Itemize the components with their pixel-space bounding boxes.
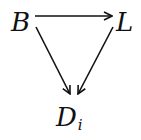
arrow-l-to-d <box>78 27 113 94</box>
node-l-label: L <box>116 7 133 37</box>
node-d-subscript: i <box>78 116 83 134</box>
node-l: L <box>116 9 133 35</box>
node-d-i: Di <box>56 104 83 130</box>
arrow-b-to-d <box>36 27 70 94</box>
node-d-label: D <box>56 102 77 132</box>
node-b: B <box>11 9 30 35</box>
node-b-label: B <box>11 7 30 37</box>
